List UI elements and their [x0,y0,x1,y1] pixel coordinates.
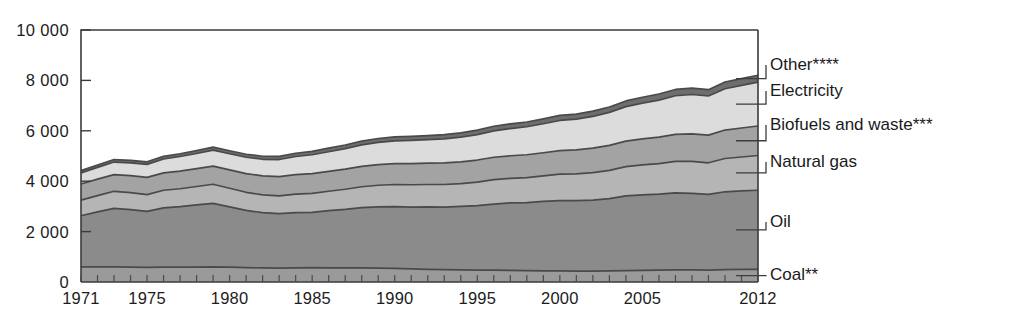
legend-label-biofuels-and-waste---: Biofuels and waste*** [770,115,933,134]
x-tick-label-1975: 1975 [128,289,166,307]
y-tick-label-10000: 10 000 [16,21,69,39]
legend-leader-0 [736,275,766,276]
y-tick-label-8000: 8 000 [26,71,69,89]
y-tick-label-6000: 6 000 [26,122,69,140]
x-tick-label-2012: 2012 [739,289,777,307]
x-tick-label-2000: 2000 [541,289,579,307]
chart-canvas: 02 0004 0006 0008 00010 000 197119751980… [0,0,1015,335]
legend-label-natural-gas: Natural gas [770,152,857,171]
stacked-area-chart-figure: 02 0004 0006 0008 00010 000 197119751980… [0,0,1015,335]
x-tick-label-1995: 1995 [459,289,497,307]
x-tick-label-2005: 2005 [624,289,662,307]
x-tick-label-1971: 1971 [62,289,100,307]
legend-label-other----: Other**** [770,55,839,74]
legend-label-electricity: Electricity [770,81,843,100]
x-tick-label-1990: 1990 [376,289,414,307]
x-tick-label-1985: 1985 [293,289,331,307]
x-tick-label-1980: 1980 [211,289,249,307]
y-tick-label-2000: 2 000 [26,223,69,241]
legend-label-coal--: Coal** [770,265,819,284]
y-tick-label-4000: 4 000 [26,172,69,190]
legend-label-oil: Oil [770,212,791,231]
